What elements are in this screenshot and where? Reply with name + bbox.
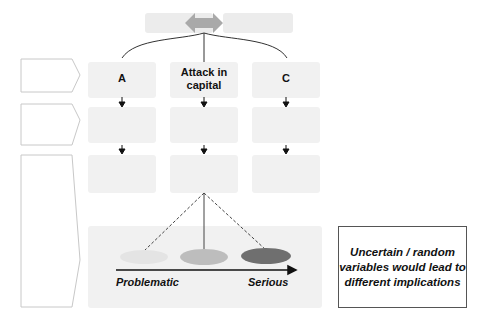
- note-text: Uncertain / random variables would lead …: [339, 245, 466, 290]
- ellipse-serious: [241, 248, 291, 264]
- pentagon-row1: [21, 59, 80, 92]
- axis-label-problematic: Problematic: [116, 276, 179, 288]
- down-arrows: [119, 97, 289, 154]
- column-label-a: A: [112, 72, 132, 85]
- ellipse-medium: [180, 249, 228, 265]
- column-label-c: C: [276, 72, 296, 85]
- left-pentagons: [21, 59, 80, 307]
- note-box: Uncertain / random variables would lead …: [338, 226, 467, 308]
- column-label-attack-in-capital: Attack in capital: [170, 66, 238, 92]
- branch-lines: [122, 33, 287, 62]
- ellipse-problematic: [120, 250, 168, 264]
- severity-axis: [116, 266, 296, 274]
- pentagon-row2: [21, 104, 80, 145]
- axis-label-serious: Serious: [248, 276, 288, 288]
- double-arrow-icon: [185, 13, 223, 33]
- scenario-lines: [144, 193, 266, 251]
- pentagon-row3: [21, 155, 80, 307]
